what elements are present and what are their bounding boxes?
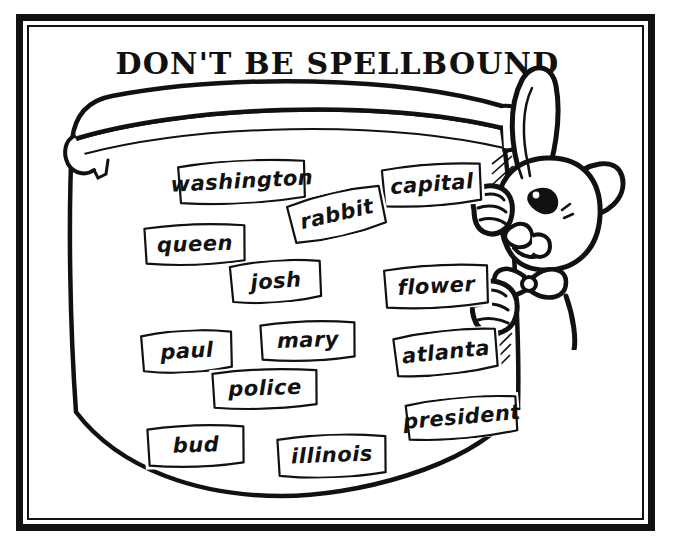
word-card-label: rabbit [298, 193, 376, 233]
word-card-label: queen [157, 230, 234, 257]
word-card-label: washington [170, 165, 314, 196]
word-card[interactable]: capital [379, 159, 486, 210]
word-card[interactable]: mary [257, 318, 358, 363]
word-card-label: paul [160, 337, 215, 364]
word-card[interactable]: police [209, 366, 320, 412]
word-card-label: josh [250, 267, 303, 295]
word-card-label: president [402, 400, 522, 434]
word-card[interactable]: bud [144, 422, 247, 470]
word-card-label: police [228, 375, 302, 402]
word-card[interactable]: paul [138, 328, 236, 376]
word-card[interactable]: washington [175, 157, 309, 208]
word-card[interactable]: queen [141, 221, 248, 268]
word-card-label: mary [277, 327, 340, 353]
word-card[interactable]: flower [381, 261, 492, 312]
word-card-label: bud [172, 432, 219, 458]
word-card[interactable]: josh [227, 257, 326, 307]
word-card[interactable]: illinois [274, 432, 389, 480]
word-card-label: illinois [291, 442, 374, 469]
word-card-label: flower [397, 271, 476, 299]
rabbit-illustration [470, 60, 630, 350]
worksheet-page: DON'T BE SPELLBOUND [0, 0, 675, 553]
word-card-label: atlanta [401, 335, 491, 368]
word-card-label: capital [389, 169, 474, 199]
